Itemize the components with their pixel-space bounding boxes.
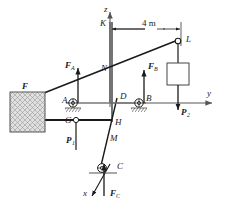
label-point-N: N <box>100 63 108 73</box>
label-point-G: G <box>65 115 72 125</box>
label-y-axis: y <box>206 88 211 98</box>
label-point-B: B <box>146 93 152 103</box>
hanging-weight-box <box>167 63 189 85</box>
label-force-FB-subscript: B <box>154 66 158 72</box>
label-point-K: K <box>99 18 107 28</box>
label-dimension-4m: 4 m <box>142 18 156 28</box>
label-z-axis: z <box>103 4 108 14</box>
label-force-P2-subscript: 2 <box>187 112 190 118</box>
label-point-M: M <box>109 133 118 143</box>
label-point-A: A <box>61 95 68 105</box>
label-force-FC-subscript: C <box>116 193 121 199</box>
label-point-H: H <box>114 117 122 127</box>
label-force-FA-symbol: F <box>64 60 71 70</box>
bearing-C <box>89 164 117 173</box>
pin-L <box>175 38 181 44</box>
label-force-FA: F A <box>64 60 75 71</box>
label-force-FB: F B <box>147 61 158 72</box>
label-force-FB-symbol: F <box>147 61 154 71</box>
label-force-FA-subscript: A <box>70 65 75 71</box>
figure-canvas: z y x 4 m K L N A B C D G H M F F A F B … <box>0 0 233 219</box>
label-force-FC: F C <box>109 188 121 199</box>
label-force-P1: P 1 <box>66 135 75 146</box>
label-point-D: D <box>119 91 127 101</box>
block-F <box>10 92 45 132</box>
label-force-P2: P 2 <box>181 107 190 118</box>
label-force-F: F <box>21 81 28 91</box>
label-force-P1-subscript: 1 <box>72 140 75 146</box>
statics-diagram: z y x 4 m K L N A B C D G H M F F A F B … <box>0 0 233 219</box>
label-x-axis: x <box>82 188 87 198</box>
label-point-C: C <box>117 161 124 171</box>
label-force-FC-symbol: F <box>109 188 116 198</box>
label-point-L: L <box>185 34 191 44</box>
